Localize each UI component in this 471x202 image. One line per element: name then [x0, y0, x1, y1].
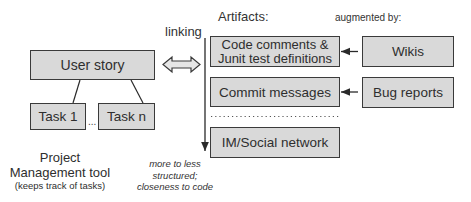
project-management-caption: Project Management tool (keeps track of …	[0, 150, 120, 192]
pm-title-line1: Project	[0, 150, 120, 165]
task-1-label: Task 1	[38, 109, 77, 124]
artifacts-header: Artifacts:	[218, 9, 269, 24]
augmented-by-header: augmented by:	[335, 12, 401, 23]
story-taskn-connector	[131, 80, 143, 103]
commit-messages-box: Commit messages	[210, 77, 340, 107]
axis-caption-line3: closeness to code	[120, 181, 230, 193]
axis-caption-line2: structured;	[120, 170, 230, 182]
code-comments-line1: Code comments &	[222, 38, 329, 52]
task-n-label: Task n	[107, 109, 146, 124]
story-task1-connector	[73, 80, 80, 103]
im-social-network-box: IM/Social network	[210, 127, 340, 158]
linking-label: linking	[165, 24, 202, 39]
wikis-box: Wikis	[362, 36, 454, 67]
code-comments-box: Code comments & Junit test definitions	[210, 36, 340, 67]
bug-reports-label: Bug reports	[373, 85, 443, 100]
code-comments-line2: Junit test definitions	[218, 52, 332, 66]
tasks-ellipsis: ...	[88, 116, 96, 127]
wikis-label: Wikis	[392, 44, 424, 59]
double-arrow-icon	[163, 57, 200, 72]
user-story-box: User story	[30, 50, 155, 80]
bug-reports-box: Bug reports	[362, 77, 454, 108]
im-social-network-label: IM/Social network	[222, 135, 329, 150]
user-story-label: User story	[61, 58, 125, 73]
pm-subtitle: (keeps track of tasks)	[0, 180, 120, 192]
task-n-box: Task n	[98, 103, 155, 130]
axis-caption-line1: more to less	[120, 158, 230, 170]
axis-caption: more to less structured; closeness to co…	[120, 158, 230, 193]
commit-messages-label: Commit messages	[219, 85, 331, 100]
pm-title-line2: Management tool	[0, 165, 120, 180]
task-1-box: Task 1	[30, 103, 86, 130]
